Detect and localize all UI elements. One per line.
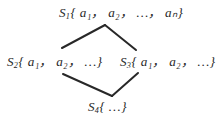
node-s1: S1{ a₁， a₂， …， aₙ} [59, 2, 184, 21]
node-s3-elements: a₁， a₂， … [137, 54, 209, 69]
node-s4-elements: … [105, 99, 120, 114]
node-s2-label: S [7, 54, 14, 69]
lattice-diagram: S1{ a₁， a₂， …， aₙ} S2{ a₁， a₂， …} S3{ a₁… [0, 0, 223, 121]
node-s3-close-brace: } [209, 54, 215, 69]
node-s4: S4{ …} [88, 99, 127, 115]
node-s2: S2{ a₁， a₂， …} [7, 51, 103, 70]
edge-top-left [62, 25, 105, 48]
edge-bottom-right [112, 73, 138, 96]
node-s4-close-brace: } [121, 99, 127, 114]
edge-bottom-left [63, 74, 112, 96]
node-s3-label: S [120, 54, 127, 69]
node-s1-label: S [59, 5, 66, 20]
node-s1-close-brace: } [177, 5, 183, 20]
node-s3: S3{ a₁， a₂， …} [120, 51, 216, 70]
node-s1-elements: a₁， a₂， …， aₙ [76, 5, 177, 20]
node-s2-close-brace: } [96, 54, 102, 69]
edge-top-right [105, 25, 136, 50]
node-s2-elements: a₁， a₂， … [24, 54, 96, 69]
node-s4-label: S [88, 99, 95, 114]
